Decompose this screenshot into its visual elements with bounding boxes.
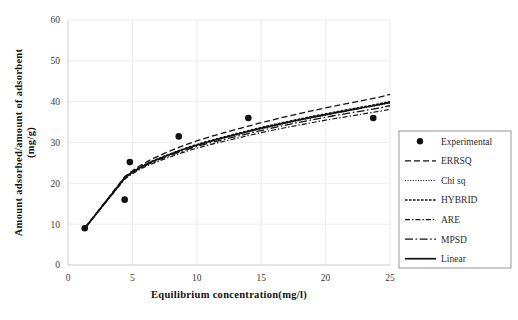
legend-label: Experimental	[441, 137, 493, 147]
x-tick-label: 20	[321, 273, 331, 283]
x-tick-label: 25	[385, 273, 395, 283]
legend-label: ERRSQ	[441, 156, 472, 166]
x-axis-tick-labels: 0510152025	[66, 273, 395, 283]
legend: ExperimentalERRSQChi sqHYBRIDAREMPSDLine…	[399, 131, 511, 268]
x-tick-label: 15	[256, 273, 266, 283]
plot-gridlines	[68, 20, 390, 265]
x-tick-label: 5	[130, 273, 135, 283]
curve-chi-sq	[85, 103, 390, 228]
y-axis-title: Amount adsorbed/amount of adsorbent(mg/g…	[13, 49, 37, 237]
x-tick-label: 10	[192, 273, 202, 283]
curve-linear	[85, 102, 390, 228]
x-tick-label: 0	[66, 273, 71, 283]
data-point	[245, 115, 252, 122]
legend-label: HYBRID	[441, 195, 478, 205]
y-axis-title-line-1: Amount adsorbed/amount of adsorbent	[13, 49, 24, 237]
y-axis-tick-labels: 0102030405060	[51, 15, 61, 270]
data-point	[127, 159, 134, 166]
y-tick-label: 10	[51, 220, 61, 230]
legend-label: ARE	[441, 215, 460, 225]
legend-marker-icon	[417, 138, 423, 144]
y-tick-label: 30	[51, 138, 61, 148]
y-tick-label: 60	[51, 15, 61, 25]
data-point	[121, 196, 128, 203]
curve-mpsd	[85, 106, 390, 229]
data-point	[81, 225, 88, 232]
legend-label: MPSD	[441, 235, 467, 245]
y-tick-label: 20	[51, 179, 61, 189]
curve-are	[85, 109, 390, 228]
legend-label: Linear	[441, 254, 467, 264]
y-axis-title-line-2: (mg/g)	[25, 127, 37, 158]
y-tick-label: 0	[55, 260, 60, 270]
legend-label: Chi sq	[441, 176, 466, 186]
y-tick-label: 50	[51, 56, 61, 66]
chart-figure: 0102030405060 0510152025 Equilibrium con…	[0, 0, 518, 320]
experimental-points	[81, 115, 376, 232]
data-point	[370, 115, 377, 122]
chart-canvas: 0102030405060 0510152025 Equilibrium con…	[0, 0, 518, 320]
data-point	[175, 133, 182, 140]
x-axis-title: Equilibrium concentration(mg/l)	[151, 289, 307, 301]
y-tick-label: 40	[51, 97, 61, 107]
